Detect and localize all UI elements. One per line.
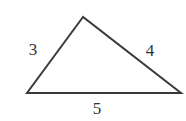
triangle (27, 17, 181, 93)
side-label-right: 4 (146, 41, 155, 60)
side-label-left: 3 (29, 40, 38, 59)
side-label-bottom: 5 (93, 99, 102, 118)
triangle-diagram: 3 4 5 (0, 0, 186, 121)
